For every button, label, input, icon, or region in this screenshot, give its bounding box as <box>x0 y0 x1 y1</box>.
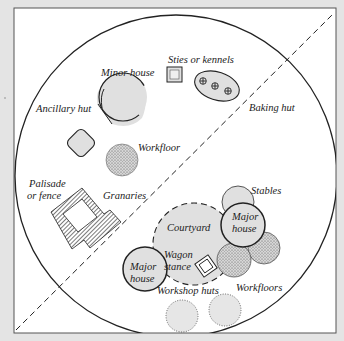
margin-dot <box>4 97 6 99</box>
sties-or-kennels <box>167 67 182 82</box>
label-workfloor: Workfloor <box>138 142 181 153</box>
label-major-house-right-1: Major <box>231 211 259 222</box>
workfloor-top <box>106 144 138 176</box>
settlement-diagram: Minor house Sties or kennels Baking hut … <box>0 0 344 341</box>
label-workfloors: Workfloors <box>236 282 282 293</box>
label-stables: Stables <box>251 185 281 196</box>
label-minor-house: Minor house <box>100 67 155 78</box>
label-palisade-1: Palisade <box>28 178 66 189</box>
label-baking-hut: Baking hut <box>249 102 296 113</box>
label-wagon-2: stance <box>164 261 191 272</box>
workshop-hut-2 <box>209 294 241 326</box>
label-palisade-2: or fence <box>27 190 61 201</box>
label-major-house-right-2: house <box>232 223 257 234</box>
label-sties: Sties or kennels <box>168 54 234 65</box>
label-courtyard: Courtyard <box>167 222 211 233</box>
label-wagon-1: Wagon <box>164 249 193 260</box>
label-major-house-left-2: house <box>130 273 155 284</box>
label-workshop-huts: Workshop huts <box>157 285 219 296</box>
label-major-house-left-1: Major <box>129 261 157 272</box>
workfloor-2 <box>217 243 251 277</box>
workshop-hut-1 <box>166 300 198 332</box>
label-granaries: Granaries <box>103 190 146 201</box>
label-ancillary-hut: Ancillary hut <box>35 103 92 114</box>
